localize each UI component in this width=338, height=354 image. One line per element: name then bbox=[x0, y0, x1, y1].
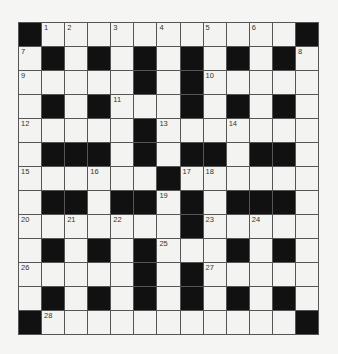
white-cell[interactable] bbox=[65, 239, 87, 262]
white-cell[interactable] bbox=[157, 263, 179, 286]
white-cell[interactable] bbox=[227, 167, 249, 190]
white-cell[interactable]: 8 bbox=[296, 47, 318, 70]
white-cell[interactable]: 2 bbox=[65, 23, 87, 46]
white-cell[interactable] bbox=[273, 215, 295, 238]
white-cell[interactable] bbox=[204, 311, 226, 334]
white-cell[interactable] bbox=[250, 263, 272, 286]
white-cell[interactable] bbox=[42, 215, 64, 238]
white-cell[interactable] bbox=[19, 287, 41, 310]
white-cell[interactable]: 26 bbox=[19, 263, 41, 286]
white-cell[interactable] bbox=[296, 215, 318, 238]
white-cell[interactable] bbox=[134, 95, 156, 118]
white-cell[interactable] bbox=[273, 167, 295, 190]
white-cell[interactable] bbox=[227, 263, 249, 286]
white-cell[interactable] bbox=[181, 239, 203, 262]
white-cell[interactable] bbox=[250, 47, 272, 70]
white-cell[interactable] bbox=[42, 71, 64, 94]
white-cell[interactable]: 1 bbox=[42, 23, 64, 46]
white-cell[interactable]: 14 bbox=[227, 119, 249, 142]
white-cell[interactable]: 12 bbox=[19, 119, 41, 142]
white-cell[interactable] bbox=[250, 71, 272, 94]
white-cell[interactable] bbox=[134, 167, 156, 190]
white-cell[interactable]: 7 bbox=[19, 47, 41, 70]
white-cell[interactable] bbox=[273, 23, 295, 46]
white-cell[interactable]: 11 bbox=[111, 95, 133, 118]
white-cell[interactable]: 5 bbox=[204, 23, 226, 46]
white-cell[interactable] bbox=[296, 167, 318, 190]
white-cell[interactable] bbox=[157, 143, 179, 166]
white-cell[interactable] bbox=[111, 71, 133, 94]
white-cell[interactable] bbox=[111, 47, 133, 70]
white-cell[interactable] bbox=[273, 71, 295, 94]
white-cell[interactable] bbox=[181, 119, 203, 142]
white-cell[interactable] bbox=[250, 287, 272, 310]
white-cell[interactable] bbox=[296, 95, 318, 118]
white-cell[interactable]: 24 bbox=[250, 215, 272, 238]
white-cell[interactable] bbox=[111, 311, 133, 334]
white-cell[interactable]: 17 bbox=[181, 167, 203, 190]
white-cell[interactable]: 18 bbox=[204, 167, 226, 190]
white-cell[interactable] bbox=[157, 71, 179, 94]
white-cell[interactable] bbox=[250, 167, 272, 190]
white-cell[interactable] bbox=[88, 263, 110, 286]
white-cell[interactable] bbox=[65, 71, 87, 94]
white-cell[interactable] bbox=[296, 287, 318, 310]
white-cell[interactable] bbox=[65, 167, 87, 190]
white-cell[interactable] bbox=[88, 71, 110, 94]
white-cell[interactable] bbox=[227, 143, 249, 166]
white-cell[interactable] bbox=[181, 23, 203, 46]
white-cell[interactable]: 15 bbox=[19, 167, 41, 190]
white-cell[interactable]: 27 bbox=[204, 263, 226, 286]
white-cell[interactable]: 23 bbox=[204, 215, 226, 238]
white-cell[interactable] bbox=[134, 311, 156, 334]
white-cell[interactable] bbox=[88, 23, 110, 46]
white-cell[interactable] bbox=[296, 71, 318, 94]
white-cell[interactable] bbox=[88, 311, 110, 334]
white-cell[interactable]: 22 bbox=[111, 215, 133, 238]
white-cell[interactable]: 10 bbox=[204, 71, 226, 94]
white-cell[interactable] bbox=[88, 119, 110, 142]
white-cell[interactable] bbox=[181, 311, 203, 334]
white-cell[interactable] bbox=[134, 215, 156, 238]
white-cell[interactable] bbox=[227, 23, 249, 46]
white-cell[interactable] bbox=[273, 119, 295, 142]
white-cell[interactable] bbox=[65, 119, 87, 142]
white-cell[interactable] bbox=[204, 287, 226, 310]
white-cell[interactable] bbox=[19, 191, 41, 214]
white-cell[interactable] bbox=[111, 119, 133, 142]
white-cell[interactable] bbox=[134, 23, 156, 46]
white-cell[interactable] bbox=[250, 119, 272, 142]
white-cell[interactable] bbox=[227, 311, 249, 334]
white-cell[interactable] bbox=[88, 191, 110, 214]
white-cell[interactable] bbox=[65, 47, 87, 70]
white-cell[interactable] bbox=[157, 287, 179, 310]
white-cell[interactable] bbox=[157, 215, 179, 238]
white-cell[interactable] bbox=[111, 167, 133, 190]
white-cell[interactable] bbox=[111, 263, 133, 286]
white-cell[interactable] bbox=[296, 143, 318, 166]
white-cell[interactable] bbox=[157, 47, 179, 70]
white-cell[interactable] bbox=[204, 119, 226, 142]
white-cell[interactable] bbox=[250, 239, 272, 262]
white-cell[interactable]: 21 bbox=[65, 215, 87, 238]
white-cell[interactable] bbox=[42, 263, 64, 286]
white-cell[interactable] bbox=[65, 263, 87, 286]
white-cell[interactable] bbox=[227, 215, 249, 238]
white-cell[interactable] bbox=[19, 239, 41, 262]
white-cell[interactable]: 20 bbox=[19, 215, 41, 238]
white-cell[interactable]: 3 bbox=[111, 23, 133, 46]
white-cell[interactable] bbox=[250, 95, 272, 118]
white-cell[interactable] bbox=[157, 95, 179, 118]
white-cell[interactable] bbox=[204, 191, 226, 214]
white-cell[interactable] bbox=[296, 119, 318, 142]
white-cell[interactable] bbox=[296, 263, 318, 286]
white-cell[interactable]: 16 bbox=[88, 167, 110, 190]
white-cell[interactable] bbox=[296, 239, 318, 262]
white-cell[interactable]: 25 bbox=[157, 239, 179, 262]
white-cell[interactable] bbox=[88, 215, 110, 238]
white-cell[interactable] bbox=[250, 311, 272, 334]
white-cell[interactable] bbox=[42, 167, 64, 190]
white-cell[interactable]: 28 bbox=[42, 311, 64, 334]
white-cell[interactable] bbox=[65, 287, 87, 310]
white-cell[interactable] bbox=[157, 311, 179, 334]
